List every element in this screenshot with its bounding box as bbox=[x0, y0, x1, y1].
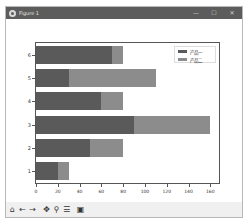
x-tick-label: 100 bbox=[137, 189, 153, 194]
bar-4-series1 bbox=[36, 92, 101, 110]
x-tick-label: 160 bbox=[202, 189, 218, 194]
bar-3-series2 bbox=[134, 116, 210, 134]
arrow-left-icon: ← bbox=[19, 206, 26, 214]
bar-4-series2 bbox=[101, 92, 123, 110]
back-button[interactable]: ← bbox=[18, 204, 27, 215]
home-button[interactable]: ⌂ bbox=[8, 204, 17, 215]
bar-6-series1 bbox=[36, 46, 112, 64]
plot-area[interactable]: 产品一产品二 123456020406080100120140160 bbox=[35, 42, 220, 184]
home-icon: ⌂ bbox=[10, 206, 15, 214]
app-icon bbox=[9, 10, 16, 17]
y-tick-label: 4 bbox=[25, 98, 31, 104]
x-tick-label: 140 bbox=[181, 189, 197, 194]
x-tick bbox=[58, 184, 59, 187]
x-tick bbox=[167, 184, 168, 187]
x-tick-label: 120 bbox=[159, 189, 175, 194]
x-tick-label: 80 bbox=[115, 189, 131, 194]
x-tick-label: 60 bbox=[93, 189, 109, 194]
y-tick bbox=[32, 171, 35, 172]
x-tick-label: 0 bbox=[28, 189, 44, 194]
bar-5-series1 bbox=[36, 69, 69, 87]
x-tick bbox=[210, 184, 211, 187]
legend-label: 产品二 bbox=[190, 57, 202, 63]
y-tick bbox=[32, 101, 35, 102]
x-tick-label: 40 bbox=[72, 189, 88, 194]
title-bar[interactable]: Figure 1 —☐✕ bbox=[6, 7, 242, 19]
bar-6-series2 bbox=[112, 46, 123, 64]
y-tick bbox=[32, 125, 35, 126]
bar-1-series2 bbox=[58, 162, 69, 180]
navigation-toolbar: ⌂←→✥⚲☰▣ bbox=[6, 202, 242, 217]
minimize-button[interactable]: — bbox=[192, 7, 200, 19]
y-tick bbox=[32, 78, 35, 79]
bar-2-series1 bbox=[36, 139, 90, 157]
bar-1-series1 bbox=[36, 162, 58, 180]
pan-button[interactable]: ✥ bbox=[42, 204, 51, 215]
x-tick bbox=[80, 184, 81, 187]
floppy-disk-icon: ▣ bbox=[77, 206, 85, 214]
legend-swatch bbox=[178, 50, 187, 53]
y-tick bbox=[32, 148, 35, 149]
legend: 产品一产品二 bbox=[174, 46, 216, 63]
y-tick-label: 1 bbox=[25, 168, 31, 174]
figure-canvas: 产品一产品二 123456020406080100120140160 bbox=[6, 19, 242, 203]
x-tick bbox=[189, 184, 190, 187]
x-tick-label: 20 bbox=[50, 189, 66, 194]
legend-item: 产品二 bbox=[178, 56, 215, 63]
y-tick-label: 6 bbox=[25, 52, 31, 58]
x-tick bbox=[36, 184, 37, 187]
x-tick bbox=[123, 184, 124, 187]
y-tick-label: 2 bbox=[25, 145, 31, 151]
sliders-icon: ☰ bbox=[63, 206, 70, 214]
legend-swatch bbox=[178, 58, 187, 61]
x-tick bbox=[145, 184, 146, 187]
x-tick bbox=[101, 184, 102, 187]
legend-label: 产品一 bbox=[190, 49, 202, 55]
legend-item: 产品一 bbox=[178, 48, 215, 55]
bar-2-series2 bbox=[90, 139, 123, 157]
maximize-button[interactable]: ☐ bbox=[210, 7, 218, 19]
magnifier-icon: ⚲ bbox=[54, 206, 60, 214]
bar-3-series1 bbox=[36, 116, 134, 134]
configure-subplots-button[interactable]: ☰ bbox=[62, 204, 71, 215]
figure-window: Figure 1 —☐✕ 产品一产品二 12345602040608010012… bbox=[5, 6, 243, 218]
forward-button[interactable]: → bbox=[28, 204, 37, 215]
save-button[interactable]: ▣ bbox=[76, 204, 85, 215]
y-tick-label: 5 bbox=[25, 75, 31, 81]
close-button[interactable]: ✕ bbox=[228, 7, 236, 19]
y-tick-label: 3 bbox=[25, 122, 31, 128]
y-tick bbox=[32, 55, 35, 56]
window-title: Figure 1 bbox=[19, 10, 39, 16]
zoom-button[interactable]: ⚲ bbox=[52, 204, 61, 215]
arrow-right-icon: → bbox=[29, 206, 36, 214]
move-icon: ✥ bbox=[43, 206, 50, 214]
bar-5-series2 bbox=[69, 69, 156, 87]
